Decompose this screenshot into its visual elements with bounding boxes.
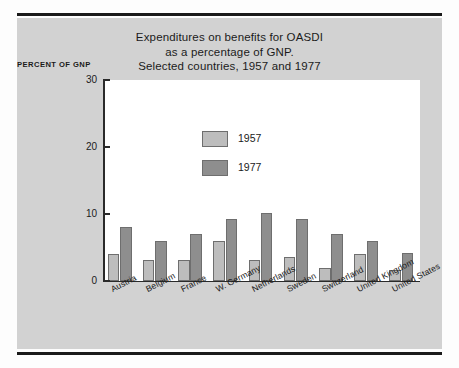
legend-swatch-1977: [202, 160, 228, 176]
bar-netherlands-1977: [261, 213, 273, 281]
bar-belgium-1957: [143, 260, 155, 281]
title-line-2: as a percentage of GNP.: [17, 45, 442, 60]
y-axis-caption: PERCENT OF GNP: [17, 60, 91, 69]
bar-w-germany-1977: [226, 219, 238, 281]
top-rule: [17, 13, 442, 16]
y-tick-20: [103, 146, 110, 147]
y-tick-label-30: 30: [67, 74, 97, 85]
bar-austria-1957: [108, 254, 120, 281]
y-tick-30: [103, 79, 110, 80]
bar-switzerland-1957: [319, 268, 331, 281]
legend-swatch-1957: [202, 131, 228, 147]
y-axis-line: [103, 80, 105, 281]
plot-area: [103, 80, 420, 281]
bar-w-germany-1957: [213, 241, 225, 281]
y-tick-label-0: 0: [67, 275, 97, 286]
legend-label-1957: 1957: [238, 132, 261, 144]
title-line-1: Expenditures on benefits for OASDI: [17, 30, 442, 45]
y-tick-label-10: 10: [67, 208, 97, 219]
bars-layer: [103, 80, 420, 281]
legend-label-1977: 1977: [238, 161, 261, 173]
bar-france-1957: [178, 260, 190, 281]
bottom-rule: [17, 352, 442, 355]
bar-sweden-1977: [296, 219, 308, 281]
y-tick-0: [103, 280, 110, 281]
figure-container: Expenditures on benefits for OASDI as a …: [0, 0, 459, 368]
y-tick-10: [103, 213, 110, 214]
y-tick-label-20: 20: [67, 141, 97, 152]
